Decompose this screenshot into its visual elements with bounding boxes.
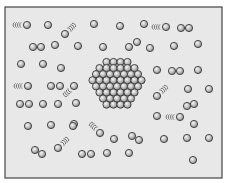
gas-particle — [24, 82, 31, 89]
gas-particle — [51, 41, 58, 48]
solid-particle — [103, 101, 110, 108]
gas-particle — [16, 100, 23, 107]
gas-particle — [190, 100, 197, 107]
gas-particle — [70, 82, 77, 89]
gas-particle — [170, 42, 177, 49]
gas-particle — [184, 85, 191, 92]
gas-particle — [54, 100, 61, 107]
gas-particle — [160, 135, 167, 142]
gas-particle — [103, 149, 110, 156]
gas-particle — [44, 21, 51, 28]
gas-particle — [38, 150, 45, 157]
gas-particle — [39, 100, 46, 107]
gas-particle — [110, 135, 117, 142]
gas-particle — [194, 66, 201, 73]
gas-particle — [74, 42, 81, 49]
gas-particle — [96, 129, 103, 136]
gas-particle — [47, 121, 54, 128]
gas-particle — [190, 120, 197, 127]
gas-particle — [116, 22, 123, 29]
gas-particle — [146, 44, 153, 51]
gas-particle — [194, 40, 201, 47]
gas-particle — [135, 136, 142, 143]
gas-particle — [72, 99, 79, 106]
gas-particle — [205, 134, 212, 141]
gas-particle — [87, 150, 94, 157]
gas-particle — [24, 122, 31, 129]
gas-particle — [29, 43, 36, 50]
solid-particle — [117, 101, 124, 108]
gas-particle — [140, 20, 147, 27]
gas-particle — [125, 149, 132, 156]
gas-particle — [90, 20, 97, 27]
gas-particle — [23, 21, 30, 28]
gas-particle — [56, 82, 63, 89]
gas-particle — [61, 30, 68, 37]
gas-particle — [176, 113, 183, 120]
gas-particle — [177, 24, 184, 31]
gas-particle — [153, 112, 160, 119]
gas-particle — [69, 122, 76, 129]
gas-particle — [37, 43, 44, 50]
gas-particle — [25, 100, 32, 107]
gas-particle — [57, 64, 64, 71]
gas-particle — [128, 132, 135, 139]
gas-particle — [183, 102, 190, 109]
solid-particle — [124, 101, 131, 108]
gas-particle — [125, 43, 132, 50]
solid-particle — [110, 101, 117, 108]
particle-diagram — [0, 0, 226, 183]
gas-particle — [31, 146, 38, 153]
gas-particle — [17, 60, 24, 67]
gas-particle — [47, 82, 54, 89]
gas-particle — [189, 156, 196, 163]
gas-particle — [153, 66, 160, 73]
gas-particle — [168, 67, 175, 74]
gas-particle — [205, 85, 212, 92]
gas-particle — [162, 23, 169, 30]
gas-particle — [176, 67, 183, 74]
gas-particle — [133, 38, 140, 45]
gas-particle — [183, 134, 190, 141]
gas-particle — [78, 150, 85, 157]
gas-particle — [99, 43, 106, 50]
gas-particle — [185, 24, 192, 31]
gas-particle — [153, 92, 160, 99]
gas-particle — [39, 60, 46, 67]
gas-particle — [54, 144, 61, 151]
